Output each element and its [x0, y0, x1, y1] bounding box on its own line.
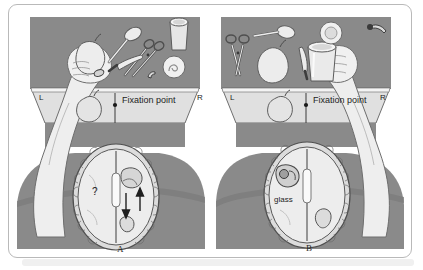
panel-caption-b: B: [306, 243, 312, 253]
screen-right-field-label-b: R: [380, 93, 386, 102]
disc-a: [163, 56, 185, 78]
brain-left-hemisphere-label-b: glass: [274, 195, 293, 204]
figure-drop-shadow: [22, 259, 414, 266]
glass-b: [308, 42, 336, 81]
screen-left-field-label-b: L: [230, 93, 234, 102]
disc-b: [320, 22, 342, 44]
brain-a: [73, 144, 159, 250]
fixation-point-label-a: Fixation point: [122, 95, 184, 105]
glass-a: [170, 18, 188, 50]
panel-caption-a: A: [117, 244, 124, 254]
brain-left-hemisphere-label-a: ?: [92, 186, 98, 197]
screen-right-field-label-a: R: [197, 93, 203, 102]
panel-a: L R Fixation point ? A: [9, 5, 211, 257]
panel-b-illustration: [210, 5, 412, 257]
fixation-point-label-b: Fixation point: [313, 95, 375, 105]
screen-left-field-label-a: L: [39, 93, 43, 102]
figure-frame: L R Fixation point ? A: [8, 4, 412, 258]
panel-a-illustration: [9, 5, 211, 257]
panel-b: L R Fixation point glass B: [210, 5, 412, 257]
